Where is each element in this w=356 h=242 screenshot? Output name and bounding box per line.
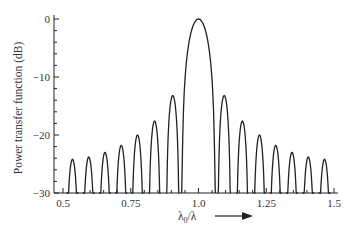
lobe-curve [83,157,95,193]
x-tick-label: 1.25 [257,197,277,209]
x-tick-label: 0.75 [121,197,141,209]
x-axis-label: λ0/λ [178,210,253,225]
lobe-curve [166,96,179,193]
svg-text:λ0/λ: λ0/λ [178,210,197,225]
y-axis-ticks: 0−10−20−30 [33,13,59,199]
chart: 0−10−20−30 0.50.751.01.251.5 Power trans… [0,0,356,242]
x-tick-label: 1.5 [327,197,341,209]
x-label-tail: /λ [188,210,197,222]
lobe-curve [254,135,266,193]
lobe-curve [115,145,127,193]
axes [54,15,338,193]
y-tick-label: −20 [33,129,51,141]
y-tick-label: −30 [33,187,51,199]
lobe-curve [99,152,111,193]
right-arrow-icon [215,212,253,220]
x-tick-label: 1.0 [192,197,206,209]
plot-curves [67,19,331,193]
y-axis-label: Power transfer function (dB) [12,42,25,175]
x-tick-label: 0.5 [56,197,70,209]
lobe-curve [302,157,314,193]
lobe-curve [149,121,161,193]
lobe-curve [218,96,231,193]
lobe-curve [270,145,282,193]
x-axis-ticks: 0.50.751.01.251.5 [56,188,341,209]
lobe-curve [67,159,79,193]
y-tick-label: −10 [33,71,51,83]
lobe-curve [286,152,298,193]
lobe-curve [319,159,331,193]
y-tick-label: 0 [45,13,51,25]
lobe-curve [182,19,216,193]
lobe-curve [132,135,144,193]
lobe-curve [236,121,248,193]
